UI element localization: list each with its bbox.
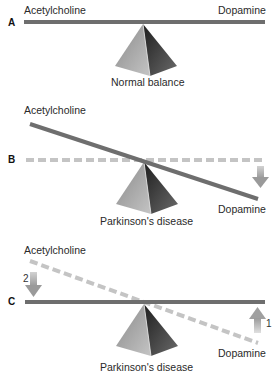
panel-a — [24, 20, 265, 76]
down-arrow-icon — [252, 166, 269, 188]
dopamine-label: Dopamine — [218, 203, 266, 215]
acetylcholine-label: Acetylcholine — [24, 244, 86, 256]
panel-c-caption: Parkinson's disease — [100, 361, 193, 373]
acetylcholine-label: Acetylcholine — [24, 104, 86, 116]
panel-a-caption: Normal balance — [111, 76, 185, 88]
panel-b — [26, 124, 269, 214]
acetylcholine-label: Acetylcholine — [24, 4, 86, 16]
fulcrum-pyramid-icon — [115, 24, 177, 76]
balance-beam — [25, 300, 265, 304]
panel-letter-b: B — [8, 154, 15, 165]
panel-letter-a: A — [8, 17, 15, 28]
panel-b-caption: Parkinson's disease — [100, 215, 193, 227]
dopamine-label: Dopamine — [218, 4, 266, 16]
arrow-number-1: 1 — [266, 318, 272, 329]
dopamine-label: Dopamine — [218, 347, 266, 359]
panel-c — [25, 261, 266, 356]
balance-beam — [24, 20, 265, 24]
panel-letter-c: C — [8, 296, 15, 307]
seesaw-diagram — [0, 0, 275, 384]
up-arrow-icon — [249, 307, 266, 333]
arrow-number-2: 2 — [23, 273, 29, 284]
